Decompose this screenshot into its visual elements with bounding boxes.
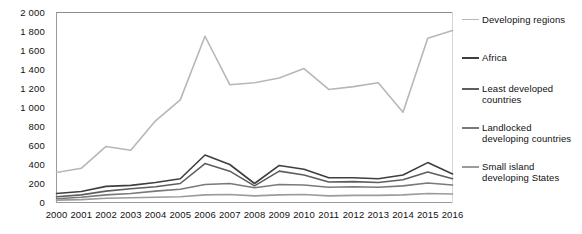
x-tick-label: 2010 bbox=[293, 210, 315, 220]
legend-item-label: Africa bbox=[482, 52, 507, 63]
x-tick-label: 2007 bbox=[219, 210, 241, 220]
legend-color-swatch bbox=[462, 162, 479, 172]
legend-color-swatch bbox=[462, 84, 479, 94]
x-tick-label: 2016 bbox=[442, 210, 464, 220]
x-tick-label: 2012 bbox=[343, 210, 365, 220]
legend-item[interactable]: Africa bbox=[462, 52, 507, 63]
x-tick-label: 2003 bbox=[120, 210, 142, 220]
legend-color-swatch bbox=[462, 15, 479, 25]
x-tick-label: 2008 bbox=[244, 210, 266, 220]
legend-item-label: Small islanddeveloping States bbox=[482, 161, 559, 183]
x-tick-label: 2001 bbox=[70, 210, 92, 220]
legend-item-label: Landlockeddeveloping countries bbox=[482, 122, 571, 144]
x-tick-label: 2000 bbox=[46, 210, 68, 220]
legend-item[interactable]: Small islanddeveloping States bbox=[462, 161, 559, 183]
x-tick-label: 2004 bbox=[145, 210, 167, 220]
legend-item[interactable]: Least developedcountries bbox=[462, 83, 553, 105]
x-tick-label: 2006 bbox=[194, 210, 216, 220]
x-tick-label: 2014 bbox=[392, 210, 414, 220]
x-tick-label: 2011 bbox=[318, 210, 339, 220]
legend-color-swatch bbox=[462, 123, 479, 133]
legend-item[interactable]: Developing regions bbox=[462, 14, 565, 25]
legend-color-swatch bbox=[462, 53, 479, 63]
x-tick-label: 2005 bbox=[169, 210, 191, 220]
x-tick-label: 2002 bbox=[95, 210, 117, 220]
legend-item-label: Developing regions bbox=[482, 14, 565, 25]
x-tick-label: 2009 bbox=[268, 210, 290, 220]
legend-item-label: Least developedcountries bbox=[482, 83, 553, 105]
x-tick-label: 2015 bbox=[417, 210, 439, 220]
line-chart: 02004006008001 0001 2001 4001 6001 8002 … bbox=[0, 0, 582, 234]
x-axis: 2000200120022003200420052006200720082009… bbox=[0, 0, 582, 234]
x-tick-label: 2013 bbox=[367, 210, 389, 220]
legend-item[interactable]: Landlockeddeveloping countries bbox=[462, 122, 571, 144]
